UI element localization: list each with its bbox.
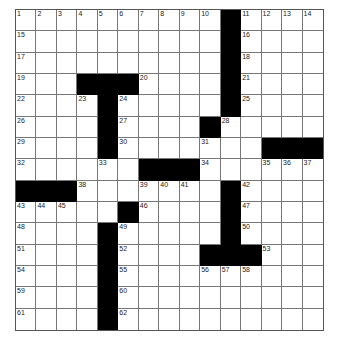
grid-cell[interactable] xyxy=(221,159,241,180)
grid-cell[interactable] xyxy=(57,117,77,138)
grid-cell[interactable] xyxy=(36,287,56,308)
grid-cell[interactable] xyxy=(180,138,200,159)
grid-cell[interactable]: 16 xyxy=(241,31,261,52)
grid-cell[interactable] xyxy=(180,202,200,223)
grid-cell[interactable]: 36 xyxy=(282,159,302,180)
grid-cell[interactable] xyxy=(159,74,179,95)
grid-cell[interactable] xyxy=(139,287,159,308)
grid-cell[interactable]: 45 xyxy=(57,202,77,223)
grid-cell[interactable] xyxy=(303,31,323,52)
grid-cell[interactable]: 55 xyxy=(118,266,138,287)
grid-cell[interactable] xyxy=(282,245,302,266)
grid-cell[interactable] xyxy=(303,117,323,138)
grid-cell[interactable] xyxy=(77,309,97,330)
grid-cell[interactable]: 1 xyxy=(16,10,36,31)
grid-cell[interactable]: 38 xyxy=(77,181,97,202)
grid-cell[interactable] xyxy=(36,74,56,95)
grid-cell[interactable]: 51 xyxy=(16,245,36,266)
grid-cell[interactable] xyxy=(159,31,179,52)
grid-cell[interactable] xyxy=(159,202,179,223)
grid-cell[interactable] xyxy=(57,309,77,330)
grid-cell[interactable] xyxy=(77,287,97,308)
grid-cell[interactable] xyxy=(159,223,179,244)
grid-cell[interactable] xyxy=(221,287,241,308)
grid-cell[interactable]: 50 xyxy=(241,223,261,244)
grid-cell[interactable] xyxy=(262,287,282,308)
grid-cell[interactable] xyxy=(77,202,97,223)
grid-cell[interactable] xyxy=(36,245,56,266)
grid-cell[interactable] xyxy=(303,223,323,244)
grid-cell[interactable] xyxy=(303,245,323,266)
grid-cell[interactable]: 56 xyxy=(200,266,220,287)
grid-cell[interactable]: 29 xyxy=(16,138,36,159)
grid-cell[interactable]: 52 xyxy=(118,245,138,266)
grid-cell[interactable] xyxy=(36,159,56,180)
grid-cell[interactable]: 8 xyxy=(159,10,179,31)
grid-cell[interactable]: 9 xyxy=(180,10,200,31)
grid-cell[interactable] xyxy=(180,266,200,287)
grid-cell[interactable] xyxy=(36,138,56,159)
grid-cell[interactable] xyxy=(262,74,282,95)
grid-cell[interactable] xyxy=(282,223,302,244)
grid-cell[interactable] xyxy=(77,245,97,266)
grid-cell[interactable]: 48 xyxy=(16,223,36,244)
grid-cell[interactable] xyxy=(200,53,220,74)
grid-cell[interactable] xyxy=(262,266,282,287)
grid-cell[interactable]: 15 xyxy=(16,31,36,52)
grid-cell[interactable] xyxy=(241,138,261,159)
grid-cell[interactable] xyxy=(57,74,77,95)
grid-cell[interactable] xyxy=(36,266,56,287)
grid-cell[interactable]: 11 xyxy=(241,10,261,31)
grid-cell[interactable]: 41 xyxy=(180,181,200,202)
grid-cell[interactable] xyxy=(98,53,118,74)
grid-cell[interactable]: 6 xyxy=(118,10,138,31)
grid-cell[interactable] xyxy=(57,287,77,308)
grid-cell[interactable] xyxy=(57,31,77,52)
grid-cell[interactable] xyxy=(200,31,220,52)
grid-cell[interactable]: 31 xyxy=(200,138,220,159)
grid-cell[interactable]: 30 xyxy=(118,138,138,159)
grid-cell[interactable] xyxy=(262,53,282,74)
grid-cell[interactable]: 20 xyxy=(139,74,159,95)
grid-cell[interactable] xyxy=(241,117,261,138)
grid-cell[interactable]: 34 xyxy=(200,159,220,180)
grid-cell[interactable] xyxy=(262,95,282,116)
grid-cell[interactable]: 53 xyxy=(262,245,282,266)
grid-cell[interactable] xyxy=(200,223,220,244)
grid-cell[interactable] xyxy=(303,95,323,116)
grid-cell[interactable] xyxy=(303,202,323,223)
grid-cell[interactable] xyxy=(159,245,179,266)
grid-cell[interactable] xyxy=(241,287,261,308)
grid-cell[interactable]: 59 xyxy=(16,287,36,308)
grid-cell[interactable]: 21 xyxy=(241,74,261,95)
grid-cell[interactable] xyxy=(98,31,118,52)
grid-cell[interactable]: 44 xyxy=(36,202,56,223)
grid-cell[interactable] xyxy=(180,95,200,116)
grid-cell[interactable] xyxy=(200,181,220,202)
grid-cell[interactable] xyxy=(221,138,241,159)
grid-cell[interactable] xyxy=(118,31,138,52)
grid-cell[interactable] xyxy=(57,159,77,180)
grid-cell[interactable] xyxy=(200,287,220,308)
grid-cell[interactable] xyxy=(77,31,97,52)
grid-cell[interactable] xyxy=(159,287,179,308)
grid-cell[interactable]: 46 xyxy=(139,202,159,223)
grid-cell[interactable] xyxy=(159,309,179,330)
grid-cell[interactable]: 2 xyxy=(36,10,56,31)
grid-cell[interactable] xyxy=(282,74,302,95)
grid-cell[interactable]: 22 xyxy=(16,95,36,116)
grid-cell[interactable] xyxy=(241,309,261,330)
grid-cell[interactable]: 37 xyxy=(303,159,323,180)
grid-cell[interactable] xyxy=(241,159,261,180)
grid-cell[interactable]: 49 xyxy=(118,223,138,244)
grid-cell[interactable]: 12 xyxy=(262,10,282,31)
grid-cell[interactable] xyxy=(57,223,77,244)
grid-cell[interactable]: 23 xyxy=(77,95,97,116)
grid-cell[interactable] xyxy=(200,202,220,223)
grid-cell[interactable] xyxy=(36,117,56,138)
grid-cell[interactable]: 7 xyxy=(139,10,159,31)
grid-cell[interactable]: 24 xyxy=(118,95,138,116)
grid-cell[interactable]: 17 xyxy=(16,53,36,74)
grid-cell[interactable] xyxy=(262,309,282,330)
grid-cell[interactable] xyxy=(139,31,159,52)
